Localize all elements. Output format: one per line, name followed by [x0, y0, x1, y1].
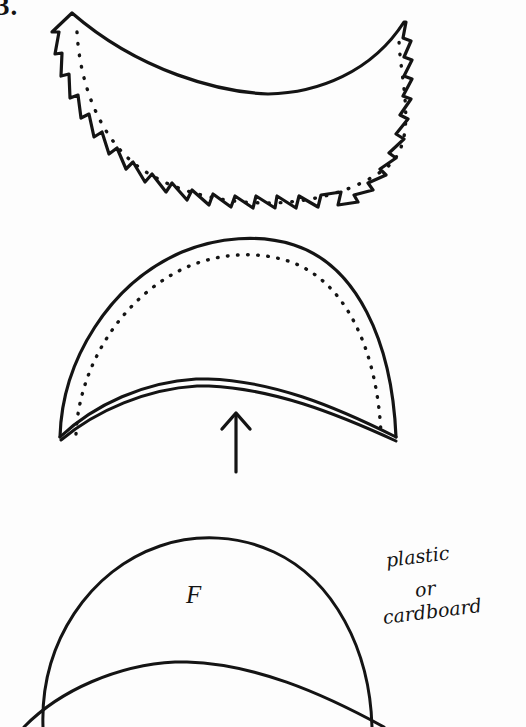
material-note-line-2: or — [414, 579, 437, 600]
dome-dotted-seam-line — [76, 255, 381, 434]
template-outer-outline — [43, 538, 372, 727]
up-arrow-icon — [222, 413, 250, 472]
pattern-diagram-page: 3. F plastic or cardboard — [0, 0, 526, 727]
figure-middle-turned-dome — [60, 238, 396, 472]
figure-bottom-template — [24, 538, 384, 727]
figure-number-label: 3. — [0, 0, 18, 20]
piece-label-f: F — [186, 582, 202, 607]
crescent-dotted-seam-line — [77, 32, 406, 203]
crescent-outline — [52, 13, 412, 208]
figure-top-notched-crescent — [52, 13, 412, 208]
template-inner-arc — [24, 662, 384, 727]
